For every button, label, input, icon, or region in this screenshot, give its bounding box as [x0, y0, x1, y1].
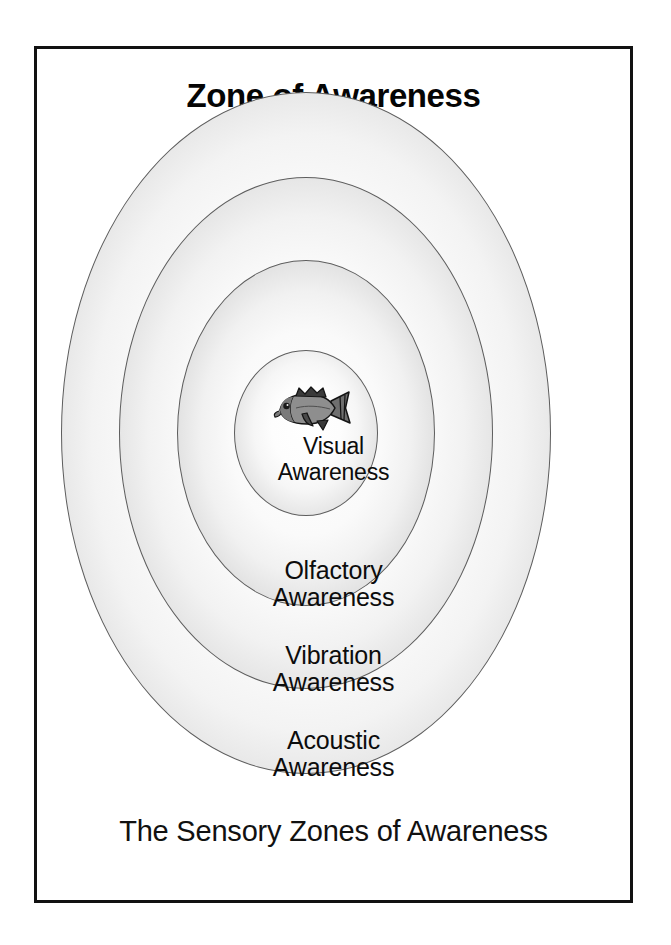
figure-caption: The Sensory Zones of Awareness	[37, 815, 630, 848]
fish-icon	[265, 386, 351, 432]
zone-label-vibration: Vibration Awareness	[37, 642, 630, 696]
zone-diagram: Visual Awareness Olfactory Awareness Vib…	[37, 49, 630, 900]
zone-label-acoustic: Acoustic Awareness	[37, 727, 630, 781]
zone-label-olfactory: Olfactory Awareness	[37, 557, 630, 611]
figure-frame: Zone of Awareness	[34, 46, 633, 903]
zone-label-visual: Visual Awareness	[37, 433, 630, 485]
